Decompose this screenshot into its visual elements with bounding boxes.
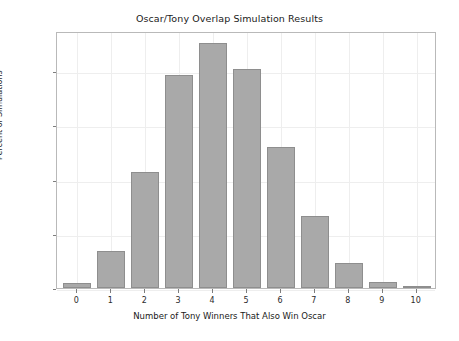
bar-3 <box>165 75 193 288</box>
x-tick-label: 6 <box>277 296 282 305</box>
bar-0 <box>63 283 91 288</box>
x-tick-label: 7 <box>311 296 316 305</box>
bar-8 <box>335 263 363 288</box>
bar-1 <box>97 251 125 288</box>
x-tick-label: 5 <box>243 296 248 305</box>
y-tick-mark <box>53 181 57 182</box>
bar-7 <box>301 216 329 288</box>
bar-2 <box>131 172 159 288</box>
x-tick-mark <box>280 289 281 293</box>
x-tick-label: 2 <box>142 296 147 305</box>
y-tick-mark <box>53 235 57 236</box>
bar-9 <box>369 282 397 289</box>
y-tick-mark <box>53 72 57 73</box>
x-tick-mark <box>76 289 77 293</box>
x-tick-mark <box>314 289 315 293</box>
x-tick-mark <box>382 289 383 293</box>
bar-4 <box>199 43 227 288</box>
chart-title: Oscar/Tony Overlap Simulation Results <box>0 13 459 24</box>
plot-area <box>56 32 436 289</box>
bar-series <box>57 33 435 288</box>
x-tick-mark <box>144 289 145 293</box>
x-tick-label: 8 <box>345 296 350 305</box>
x-tick-mark <box>348 289 349 293</box>
y-tick-mark <box>53 289 57 290</box>
x-tick-mark <box>110 289 111 293</box>
x-tick-label: 3 <box>176 296 181 305</box>
bar-10 <box>403 286 431 288</box>
bar-6 <box>267 147 295 288</box>
x-axis-label: Number of Tony Winners That Also Win Osc… <box>0 311 459 321</box>
x-tick-label: 10 <box>411 296 421 305</box>
bar-5 <box>233 69 261 288</box>
x-tick-label: 0 <box>74 296 79 305</box>
chart-figure: Oscar/Tony Overlap Simulation Results Pe… <box>0 0 459 341</box>
x-tick-mark <box>246 289 247 293</box>
x-tick-mark <box>178 289 179 293</box>
y-axis-label: Percent of Simulations <box>0 70 4 160</box>
x-tick-label: 1 <box>108 296 113 305</box>
x-tick-mark <box>416 289 417 293</box>
x-tick-mark <box>212 289 213 293</box>
y-tick-mark <box>53 126 57 127</box>
x-tick-label: 9 <box>379 296 384 305</box>
x-tick-label: 4 <box>210 296 215 305</box>
